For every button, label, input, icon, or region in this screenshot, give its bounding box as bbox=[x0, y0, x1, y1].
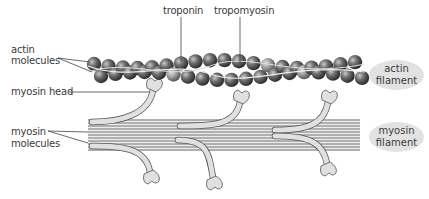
actin-filament bbox=[87, 53, 369, 87]
actin-bead bbox=[355, 71, 369, 85]
actin-filament-legend-line2: filament bbox=[376, 75, 417, 87]
actin-filament-legend: actin filament bbox=[369, 60, 424, 90]
myosin-head bbox=[234, 90, 250, 104]
actin-bead bbox=[224, 73, 238, 87]
troponin-label: troponin bbox=[163, 5, 203, 16]
myosin-molecules-leader-1 bbox=[48, 131, 88, 132]
actin-bead bbox=[348, 55, 362, 69]
actin-filament-legend-line1: actin bbox=[384, 63, 409, 75]
actin-molecules-label-line2: molecules bbox=[11, 55, 60, 66]
muscle-filament-diagram: troponin tropomyosin actin molecules myo… bbox=[0, 0, 429, 199]
diagram-artwork bbox=[0, 0, 429, 199]
myosin-tail bbox=[92, 90, 153, 122]
myosin-head bbox=[147, 78, 163, 92]
myosin-head bbox=[322, 90, 338, 104]
myosin-head bbox=[144, 170, 160, 184]
tropomyosin-label: tropomyosin bbox=[214, 5, 274, 16]
myosin-molecules-label-line2: molecules bbox=[11, 138, 60, 149]
myosin-molecules-label-line1: myosin bbox=[11, 126, 46, 137]
myosin-filament-legend-line2: filament bbox=[376, 137, 417, 149]
myosin-filament-legend: myosin filament bbox=[369, 122, 424, 152]
myosin-head-label: myosin head bbox=[11, 86, 73, 97]
myosin-filament-legend-line1: myosin bbox=[378, 125, 414, 137]
actin-bead bbox=[203, 53, 217, 67]
actin-molecules-label-line1: actin bbox=[11, 44, 35, 55]
actin-bead bbox=[217, 53, 231, 67]
myosin-head bbox=[207, 176, 223, 190]
myosin-head bbox=[321, 162, 337, 176]
actin-bead bbox=[188, 54, 202, 68]
actin-bead bbox=[239, 72, 253, 86]
